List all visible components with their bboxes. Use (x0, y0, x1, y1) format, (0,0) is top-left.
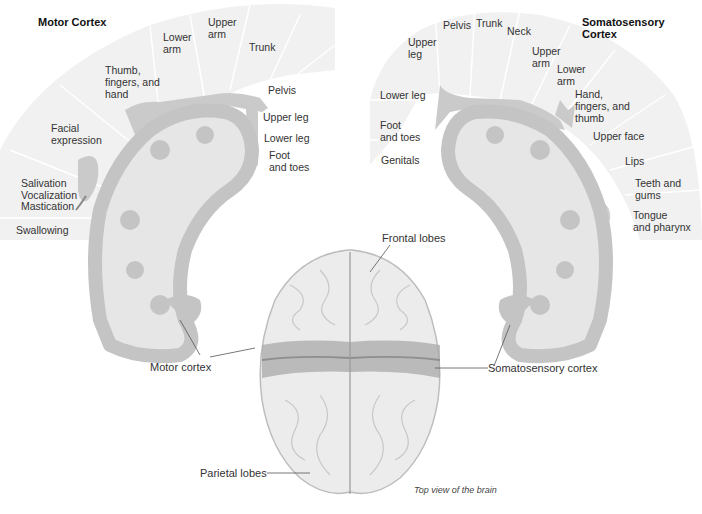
sensory-label-neck: Neck (507, 25, 531, 37)
sensory-label-trunk: Trunk (476, 17, 502, 29)
figure-caption: Top view of the brain (414, 485, 497, 495)
sensory-label-lower-leg: Lower leg (380, 89, 426, 101)
motor-cortex-title: Motor Cortex (38, 16, 106, 28)
sensory-label-upper-leg: Upperleg (408, 36, 437, 60)
callout-somatosensory-cortex: Somatosensory cortex (488, 362, 597, 374)
motor-label-lower-arm: Lowerarm (163, 31, 192, 55)
sensory-cortex-slice (448, 111, 606, 356)
motor-label-salivation: Salivation (21, 177, 67, 189)
callout-frontal-lobes: Frontal lobes (382, 232, 446, 244)
motor-label-pelvis: Pelvis (268, 84, 296, 96)
motor-label-thumb-fingers-hand: Thumb,fingers, andhand (105, 64, 160, 100)
sensory-label-hand-fingers-thumb: Hand,fingers, andthumb (575, 88, 630, 124)
sensory-label-pelvis: Pelvis (443, 19, 471, 31)
motor-label-upper-leg: Upper leg (263, 111, 309, 123)
sensory-label-tongue-pharynx: Tongueand pharynx (633, 209, 691, 233)
sensory-label-lips: Lips (625, 155, 644, 167)
motor-label-facial-expression: Facialexpression (51, 122, 102, 146)
motor-label-upper-arm: Upperarm (208, 16, 237, 40)
sensory-cortex-title: Somatosensory Cortex (582, 16, 702, 40)
sensory-label-teeth-gums: Teeth andgums (635, 177, 681, 201)
sensory-label-genitals: Genitals (381, 154, 420, 166)
sensory-label-lower-arm: Lowerarm (557, 63, 586, 87)
top-view-brain (260, 250, 440, 494)
callout-motor-cortex: Motor cortex (150, 361, 211, 373)
motor-label-lower-leg: Lower leg (264, 132, 310, 144)
motor-label-trunk: Trunk (249, 41, 275, 53)
motor-label-mastication: Mastication (21, 200, 74, 212)
sensory-label-upper-face: Upper face (593, 130, 644, 142)
sensory-label-foot-toes: Footand toes (380, 119, 420, 143)
callout-parietal-lobes: Parietal lobes (200, 467, 267, 479)
motor-label-swallowing: Swallowing (16, 224, 69, 236)
motor-label-foot-toes: Footand toes (269, 149, 309, 173)
